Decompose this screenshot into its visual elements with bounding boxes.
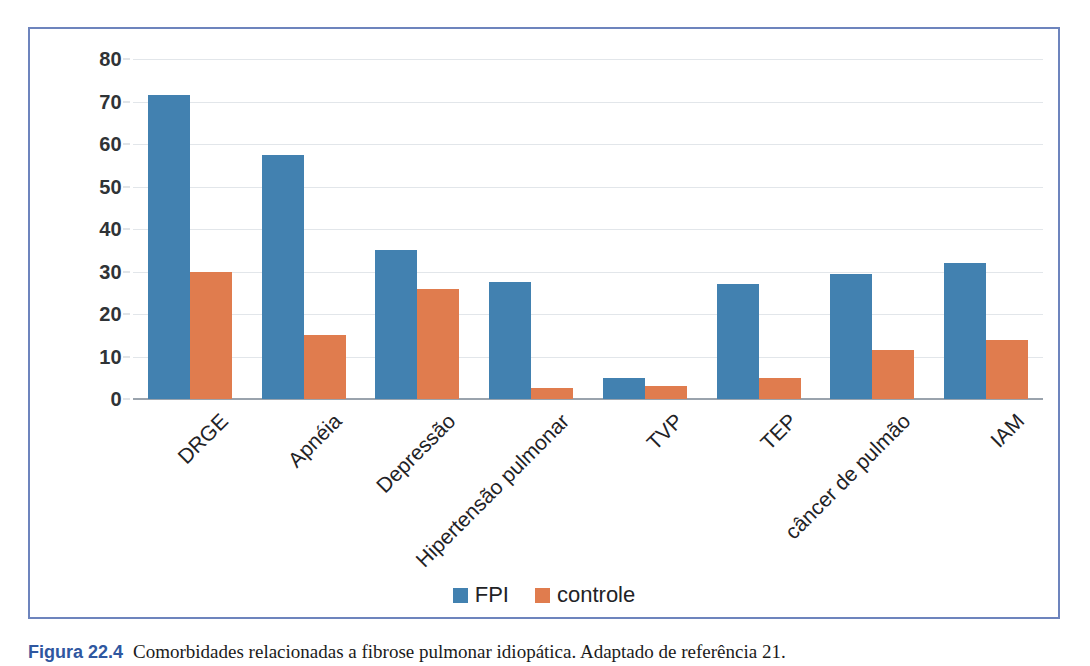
legend-swatch-icon <box>453 588 468 603</box>
bar-fpi-1 <box>262 155 304 399</box>
y-tick-mark <box>123 399 130 400</box>
bar-controle-6 <box>872 350 914 399</box>
legend-label: controle <box>557 582 635 608</box>
y-tick-label: 0 <box>111 388 122 411</box>
y-tick-label: 60 <box>99 133 122 156</box>
plot-area <box>133 59 1043 399</box>
y-tick-label: 40 <box>99 218 122 241</box>
x-tick-label: DRGE <box>157 409 233 485</box>
figure-caption: Figura 22.4Comorbidades relacionadas a f… <box>28 641 1068 663</box>
x-axis: DRGEApnéiaDepressãoHipertensão pulmonarT… <box>133 401 1043 571</box>
y-tick-label: 10 <box>99 345 122 368</box>
bar-fpi-0 <box>148 95 190 399</box>
y-tick-label: 50 <box>99 175 122 198</box>
figure-caption-number: Figura 22.4 <box>28 642 123 662</box>
bar-fpi-7 <box>944 263 986 399</box>
y-tick-label: 70 <box>99 90 122 113</box>
bar-controle-7 <box>986 340 1028 400</box>
bar-controle-0 <box>190 272 232 400</box>
y-tick-mark <box>123 356 130 357</box>
bar-controle-2 <box>417 289 459 400</box>
chart-legend: FPIcontrole <box>30 582 1058 608</box>
y-tick-mark <box>123 271 130 272</box>
bar-fpi-2 <box>375 250 417 399</box>
y-axis: 01020304050607080 <box>58 59 130 399</box>
y-tick-label: 80 <box>99 48 122 71</box>
y-tick-mark <box>123 101 130 102</box>
y-tick-mark <box>123 144 130 145</box>
bar-controle-5 <box>759 378 801 399</box>
bar-fpi-6 <box>830 274 872 399</box>
x-tick-label: Depressão <box>224 409 460 645</box>
legend-swatch-icon <box>535 588 550 603</box>
y-tick-mark <box>123 59 130 60</box>
figure-frame: 01020304050607080 DRGEApnéiaDepressãoHip… <box>28 27 1060 619</box>
bar-controle-4 <box>645 386 687 399</box>
bar-fpi-4 <box>603 378 645 399</box>
bar-fpi-5 <box>717 284 759 399</box>
figure-caption-text: Comorbidades relacionadas a fibrose pulm… <box>133 641 786 662</box>
y-tick-label: 20 <box>99 303 122 326</box>
legend-entry-fpi: FPI <box>453 582 509 608</box>
y-tick-mark <box>123 186 130 187</box>
legend-entry-controle: controle <box>535 582 635 608</box>
y-tick-label: 30 <box>99 260 122 283</box>
legend-label: FPI <box>475 582 509 608</box>
y-tick-mark <box>123 314 130 315</box>
bar-controle-1 <box>304 335 346 399</box>
y-tick-mark <box>123 229 130 230</box>
bars-layer <box>133 59 1043 399</box>
bar-controle-3 <box>531 388 573 399</box>
bar-fpi-3 <box>489 282 531 399</box>
